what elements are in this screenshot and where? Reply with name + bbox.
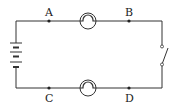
point-b-dot	[127, 19, 130, 22]
label-b: B	[125, 6, 133, 19]
bulb-bottom-icon	[80, 80, 96, 96]
label-a: A	[44, 6, 54, 19]
bulb-top-icon	[80, 13, 96, 29]
label-d: D	[125, 92, 134, 105]
point-c-dot	[47, 86, 50, 89]
junction-points	[47, 19, 130, 89]
battery-icon	[10, 43, 22, 67]
point-d-dot	[127, 86, 130, 89]
circuit-diagram: A B C D	[0, 0, 180, 105]
point-a-dot	[47, 19, 50, 22]
switch-icon	[161, 45, 169, 66]
label-c: C	[45, 92, 53, 105]
